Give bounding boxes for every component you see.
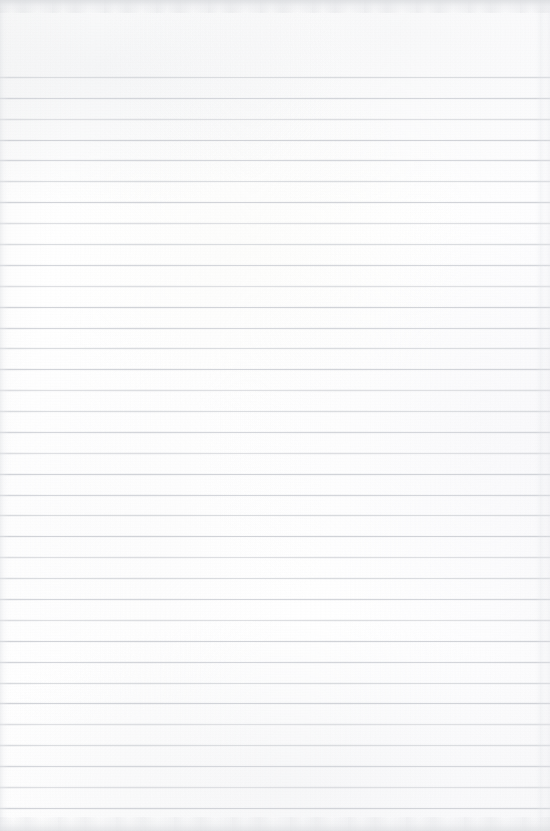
writing-line-row xyxy=(0,642,550,662)
writing-line-row xyxy=(0,412,550,432)
scan-streak-right xyxy=(536,0,550,831)
writing-line-row xyxy=(0,245,550,265)
writing-line-row xyxy=(0,767,550,787)
writing-line-row xyxy=(0,600,550,620)
scan-edge-shadow-top xyxy=(0,0,550,13)
writing-line-row xyxy=(0,537,550,557)
writing-line-row xyxy=(0,663,550,683)
writing-line-row xyxy=(0,266,550,286)
writing-line-row xyxy=(0,391,550,411)
writing-line-row xyxy=(0,141,550,160)
writing-line-row xyxy=(0,287,550,307)
writing-line-row xyxy=(0,99,550,119)
writing-line-row xyxy=(0,120,550,140)
writing-line-row xyxy=(0,370,550,390)
writing-line-row xyxy=(0,579,550,599)
writing-line-row xyxy=(0,788,550,808)
writing-line-row xyxy=(0,558,550,578)
ruled-line xyxy=(0,808,550,809)
writing-line-row xyxy=(0,433,550,453)
writing-line-row xyxy=(0,329,550,348)
writing-line-row xyxy=(0,704,550,724)
writing-line-row xyxy=(0,308,550,328)
writing-line-row xyxy=(0,454,550,474)
writing-line-row xyxy=(0,349,550,369)
writing-line-row xyxy=(0,203,550,223)
writing-line-row xyxy=(0,684,550,703)
scanned-page xyxy=(0,0,550,831)
writing-line-row xyxy=(0,475,550,495)
writing-line-row xyxy=(0,496,550,515)
writing-line-row xyxy=(0,516,550,536)
writing-line-row xyxy=(0,161,550,181)
writing-line-row xyxy=(0,621,550,641)
scan-edge-shadow-left xyxy=(0,0,9,831)
writing-line-row xyxy=(0,725,550,745)
writing-line-row xyxy=(0,746,550,766)
writing-line-row xyxy=(0,224,550,244)
scan-edge-shadow-bottom xyxy=(0,817,550,831)
writing-line-row xyxy=(0,182,550,202)
writing-line-row xyxy=(0,78,550,98)
